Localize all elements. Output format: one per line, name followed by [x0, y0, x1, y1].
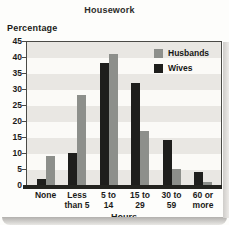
legend-label: Wives [168, 63, 193, 73]
legend: HusbandsWives [154, 48, 209, 78]
x-category-label-60-or-more: 60 or more [181, 191, 225, 210]
bar-wives-30-to-59 [163, 140, 172, 185]
legend-item-husbands: Husbands [154, 48, 209, 58]
chart-title: Housework [0, 5, 219, 15]
legend-swatch-icon [154, 49, 163, 58]
y-tick-label-40: 40 [0, 52, 22, 63]
bar-wives-5-to-14 [100, 63, 109, 185]
bar-wives-less-than-5 [68, 153, 77, 185]
bar-husbands-30-to-59 [172, 169, 181, 185]
legend-label: Husbands [168, 48, 209, 58]
y-tick-label-25: 25 [0, 100, 22, 111]
y-tick-label-0: 0 [0, 180, 22, 191]
legend-swatch-icon [154, 64, 163, 73]
x-axis-line [23, 185, 222, 189]
y-tick-label-30: 30 [0, 84, 22, 95]
bar-husbands-15-to-29 [140, 131, 149, 185]
y-tick-label-45: 45 [0, 36, 22, 47]
y-tick-label-35: 35 [0, 68, 22, 79]
y-tick-label-5: 5 [0, 164, 22, 175]
page-bottom-shadow [2, 217, 227, 225]
y-axis-title: Percentage [7, 23, 58, 33]
bar-husbands-less-than-5 [77, 95, 86, 185]
bar-husbands-none [46, 156, 55, 185]
bar-wives-60-or-more [194, 172, 203, 185]
y-tick-label-20: 20 [0, 116, 22, 127]
page-right-shadow [223, 42, 229, 218]
y-tick-label-10: 10 [0, 148, 22, 159]
scanned-chart-page: Housework Percentage 454035302520151050 … [0, 0, 229, 225]
bar-wives-15-to-29 [131, 83, 140, 185]
bar-husbands-5-to-14 [109, 54, 118, 185]
y-tick-label-15: 15 [0, 132, 22, 143]
legend-item-wives: Wives [154, 63, 209, 73]
